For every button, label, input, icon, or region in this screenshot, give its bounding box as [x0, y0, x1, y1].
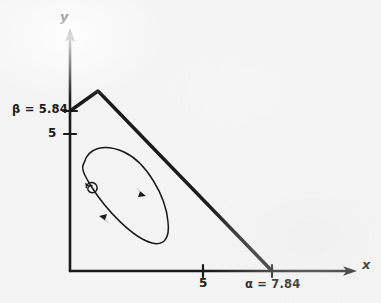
x-tick-label-5: 5 [199, 277, 207, 289]
alpha-parameter-label: α = 7.84 [245, 279, 301, 291]
y-axis-label: y [60, 10, 68, 23]
phase-plane-plot [0, 0, 381, 303]
limit-cycle-orbit [83, 148, 169, 244]
x-axis-label: x [362, 258, 370, 271]
invariant-region-boundary [70, 91, 272, 271]
phase-plane-figure: y x β = 5.84 5 5 α = 7.84 [0, 0, 381, 303]
orbit-arrowhead-ascending [99, 214, 110, 224]
beta-parameter-label: β = 5.84 [12, 104, 68, 116]
orbit-arrowhead-descending [135, 187, 146, 197]
y-tick-label-5: 5 [48, 127, 56, 139]
